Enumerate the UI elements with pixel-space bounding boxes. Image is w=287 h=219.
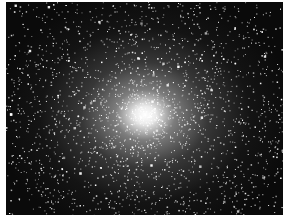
stars-svg — [6, 2, 283, 215]
cluster-image — [6, 2, 283, 215]
star-field — [6, 2, 283, 215]
